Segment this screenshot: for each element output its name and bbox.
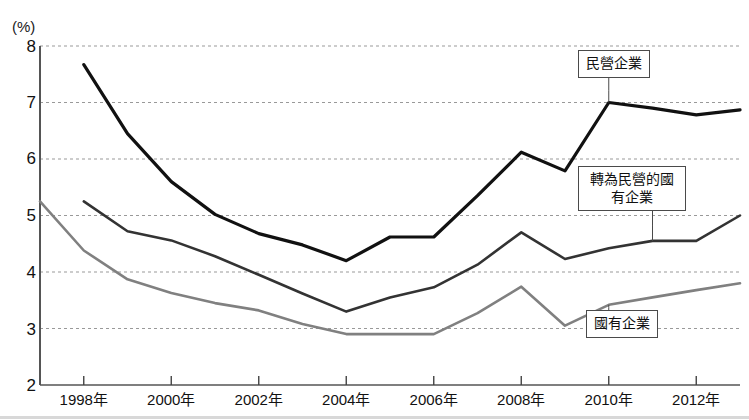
x-tick-marks xyxy=(84,376,697,385)
series-line-0 xyxy=(84,65,740,261)
callout-privatized-soe: 轉為民營的國有企業 xyxy=(578,166,686,211)
line-chart: (%) 8 7 6 5 4 3 2 1998年 2000年 2002年 2004… xyxy=(0,0,749,420)
bottom-divider xyxy=(0,416,749,419)
callout-soe: 國有企業 xyxy=(586,310,658,338)
callout-private-enterprises: 民營企業 xyxy=(578,50,650,78)
